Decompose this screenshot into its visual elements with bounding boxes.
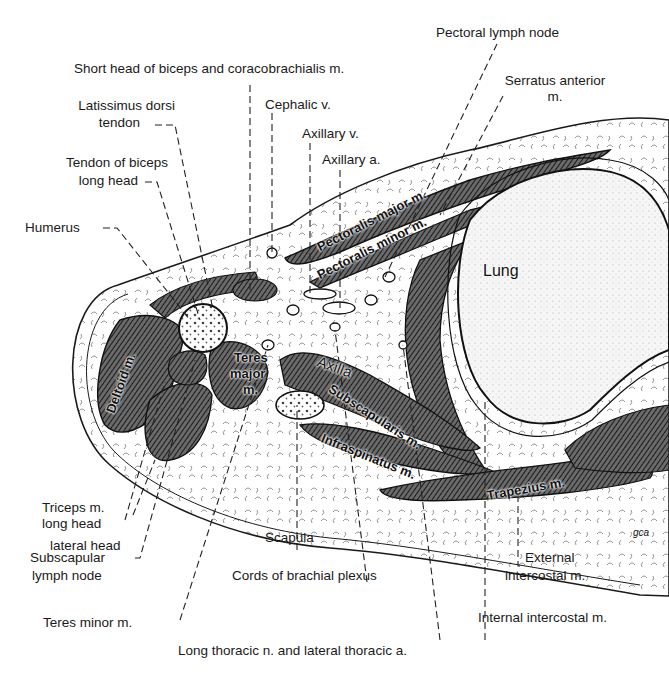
teres-major-label-1: Teres — [234, 350, 268, 365]
label-triceps-2: long head — [42, 516, 101, 532]
short-head-biceps — [233, 279, 277, 301]
label-external-intercostal-2: intercostal m. — [505, 568, 585, 584]
label-pectoral-lymph-node: Pectoral lymph node — [420, 25, 575, 41]
axillary-artery — [323, 302, 355, 314]
label-internal-intercostal: Internal intercostal m. — [478, 610, 607, 626]
teres-major-label-2: major — [230, 366, 265, 381]
label-cords-brachial-plexus: Cords of brachial plexus — [232, 568, 377, 584]
label-cephalic-vein: Cephalic v. — [265, 97, 331, 113]
label-latissimus-2: tendon — [40, 115, 140, 131]
scapula-bone — [276, 391, 324, 419]
axillary-vein — [304, 289, 336, 299]
label-subscapular-ln-1: Subscapular — [30, 550, 105, 566]
label-serratus-anterior-1: Serratus anterior — [495, 73, 615, 89]
label-teres-minor: Teres minor m. — [43, 615, 132, 631]
label-long-thoracic: Long thoracic n. and lateral thoracic a. — [178, 643, 407, 659]
label-external-intercostal-1: External — [525, 550, 575, 566]
humerus-bone — [179, 304, 227, 352]
triceps-lateral-head — [168, 351, 206, 385]
axilla-cross-section-diagram: Lung Deltoid m. Teres major m. Pectorali… — [0, 0, 669, 676]
label-tendon-biceps-1: Tendon of biceps — [20, 155, 168, 171]
label-humerus: Humerus — [25, 220, 80, 236]
lung-label: Lung — [483, 262, 519, 280]
label-short-head-biceps: Short head of biceps and coracobrachiali… — [74, 61, 344, 77]
label-scapula: Scapula — [265, 530, 314, 546]
label-serratus-anterior-2: m. — [495, 89, 615, 105]
label-tendon-biceps-2: long head — [20, 173, 138, 189]
label-axillary-vein: Axillary v. — [302, 126, 359, 142]
teres-major-label-3: m. — [243, 382, 258, 397]
artist-signature: gca — [633, 527, 649, 538]
label-triceps-1: Triceps m. — [42, 500, 105, 516]
label-axillary-artery: Axillary a. — [322, 152, 381, 168]
label-latissimus-1: Latissimus dorsi — [40, 98, 175, 114]
label-subscapular-ln-2: lymph node — [32, 568, 102, 584]
